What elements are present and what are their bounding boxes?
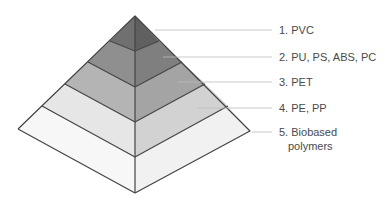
layer-labels: 1. PVC 2. PU, PS, ABS, PC 3. PET 4. PE, … <box>279 24 376 152</box>
pyramid-diagram: 1. PVC 2. PU, PS, ABS, PC 3. PET 4. PE, … <box>0 0 385 205</box>
label-layer-5-line-2: polymers <box>288 140 333 152</box>
label-layer-4: 4. PE, PP <box>279 102 327 114</box>
label-layer-3: 3. PET <box>279 76 313 88</box>
label-layer-2: 2. PU, PS, ABS, PC <box>279 51 376 63</box>
label-layer-5-line-1: 5. Biobased <box>279 126 337 138</box>
label-layer-1: 1. PVC <box>279 24 314 36</box>
